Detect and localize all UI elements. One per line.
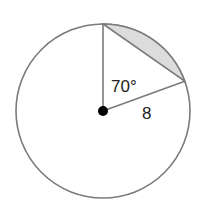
center-point — [98, 106, 108, 116]
circle-diagram: 70° 8 — [0, 0, 197, 211]
radius-label: 8 — [142, 104, 151, 123]
shaded-segment — [103, 24, 185, 81]
angle-label: 70° — [111, 77, 137, 96]
